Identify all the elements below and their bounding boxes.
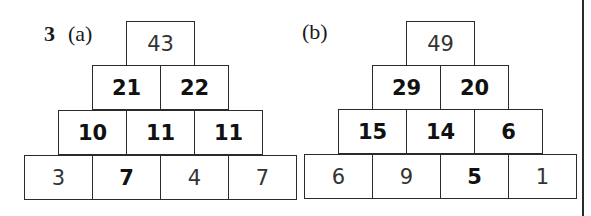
pyramid-b-cell: 6 (474, 109, 543, 154)
pyramid-b-cell: 6 (304, 154, 373, 199)
part-a-label: (a) (68, 23, 92, 45)
pyramid-b-cell: 5 (440, 154, 509, 199)
pyramid-a-cell: 43 (126, 21, 195, 66)
pyramid-a-cell: 22 (160, 65, 229, 110)
pyramid-b-cell: 20 (440, 65, 509, 110)
pyramid-a-cell: 7 (228, 155, 297, 200)
pyramid-b-cell: 1 (508, 154, 577, 199)
pyramid-a-cell: 21 (92, 65, 161, 110)
pyramid-a-cell: 3 (24, 155, 93, 200)
question-number: 3 (44, 23, 55, 45)
pyramid-a-cell: 10 (58, 110, 127, 155)
pyramid-b-cell: 29 (372, 65, 441, 110)
pyramid-a-cell: 11 (126, 110, 195, 155)
pyramid-b-cell: 15 (338, 109, 407, 154)
page-border-line (582, 0, 584, 216)
pyramid-a-cell: 4 (160, 155, 229, 200)
pyramid-b-cell: 9 (372, 154, 441, 199)
pyramid-b-cell: 14 (406, 109, 475, 154)
pyramid-a-cell: 7 (92, 155, 161, 200)
pyramid-b-cell: 49 (406, 21, 475, 66)
part-b-label: (b) (302, 21, 328, 43)
pyramid-a-cell: 11 (194, 110, 263, 155)
